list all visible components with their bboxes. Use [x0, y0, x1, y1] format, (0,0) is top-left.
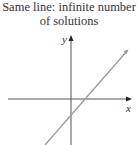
y-axis-label: y [61, 33, 67, 45]
x-axis-label: x [125, 102, 131, 114]
coordinate-plane: y x [0, 0, 138, 145]
y-axis-arrow-icon [69, 35, 74, 41]
x-axis-arrow-icon [126, 97, 132, 102]
coincident-line [45, 51, 127, 145]
